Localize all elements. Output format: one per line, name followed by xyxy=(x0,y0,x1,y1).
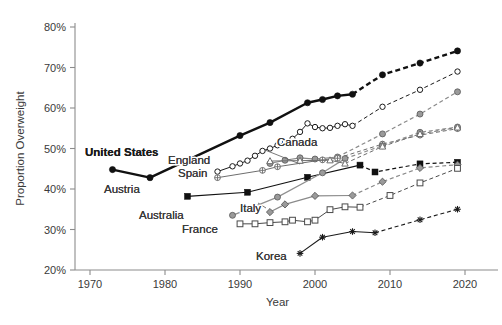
y-tick-label: 40% xyxy=(44,183,66,195)
data-point-open-circle xyxy=(297,129,302,134)
data-point-open-circle xyxy=(252,153,257,158)
series-label-france: France xyxy=(182,223,218,235)
series-line-projected xyxy=(345,127,458,159)
data-point-filled-circle xyxy=(304,100,310,106)
data-point-open-circle xyxy=(215,169,220,174)
series-line-projected xyxy=(375,209,458,232)
data-point-open-circle xyxy=(230,164,235,169)
data-point-open-circle xyxy=(327,125,332,130)
x-tick-label: 1970 xyxy=(78,278,102,290)
series-italy xyxy=(266,161,461,216)
y-tick-label: 30% xyxy=(44,224,66,236)
overweight-proportion-line-chart: 20%30%40%50%60%70%80%1970198019902000201… xyxy=(0,0,502,325)
data-point-filled-circle xyxy=(319,96,325,102)
data-point-filled-circle xyxy=(334,93,340,99)
series-label-austria: Austria xyxy=(104,183,140,195)
y-tick-label: 80% xyxy=(44,21,66,33)
data-point-gray-diamond xyxy=(266,208,273,215)
data-point-open-square xyxy=(305,219,311,225)
data-point-gray-diamond xyxy=(281,201,288,208)
series-line-projected xyxy=(353,72,458,126)
data-point-open-circle xyxy=(417,87,422,92)
series-korea xyxy=(297,206,461,257)
series-label-england: England xyxy=(168,154,210,166)
data-point-open-circle xyxy=(237,161,242,166)
data-point-open-square xyxy=(357,204,363,210)
data-point-filled-circle xyxy=(109,166,115,172)
y-tick-label: 70% xyxy=(44,62,66,74)
x-tick-label: 2010 xyxy=(378,278,402,290)
data-point-gray-diamond xyxy=(379,178,386,185)
data-point-filled-circle xyxy=(454,48,460,54)
data-point-open-square xyxy=(455,165,461,171)
data-point-gray-circle xyxy=(417,111,423,117)
data-point-filled-square xyxy=(357,162,363,168)
data-point-gray-circle xyxy=(320,170,326,176)
data-point-filled-square xyxy=(245,189,251,195)
x-axis-title: Year xyxy=(266,296,289,308)
data-point-open-circle xyxy=(245,158,250,163)
data-point-filled-square xyxy=(372,169,378,175)
y-axis-title: Proportion Overweight xyxy=(14,90,26,205)
data-point-filled-circle xyxy=(237,132,243,138)
series-label-united-states: United States xyxy=(85,146,159,158)
data-point-open-circle xyxy=(267,146,272,151)
data-point-open-circle xyxy=(455,69,460,74)
x-tick-label: 1990 xyxy=(228,278,252,290)
data-point-open-square xyxy=(327,207,333,213)
series-spain xyxy=(215,126,461,181)
series-line-projected xyxy=(345,127,458,163)
series-label-canada: Canada xyxy=(277,136,318,148)
series-line-projected xyxy=(338,129,458,159)
data-point-gray-circle xyxy=(275,194,281,200)
data-point-gray-circle xyxy=(380,131,386,137)
data-point-open-square xyxy=(342,204,348,210)
data-point-open-square xyxy=(267,220,273,226)
series-label-italy: Italy xyxy=(240,202,261,214)
data-point-open-square xyxy=(417,180,423,186)
data-point-gray-diamond xyxy=(349,192,356,199)
chart-figure: 20%30%40%50%60%70%80%1970198019902000201… xyxy=(0,0,502,325)
series-label-australia: Australia xyxy=(139,209,184,221)
data-point-gray-circle xyxy=(230,212,236,218)
data-point-filled-circle xyxy=(349,91,355,97)
data-point-filled-circle xyxy=(379,72,385,78)
series-label-korea: Korea xyxy=(256,250,287,262)
series-label-spain: Spain xyxy=(178,167,207,179)
data-point-open-circle xyxy=(335,123,340,128)
x-tick-label: 2000 xyxy=(303,278,327,290)
series-line-projected xyxy=(353,51,458,94)
y-tick-label: 60% xyxy=(44,102,66,114)
data-point-open-circle xyxy=(305,121,310,126)
data-point-open-square xyxy=(312,217,318,223)
x-tick-label: 2020 xyxy=(453,278,477,290)
series-line-observed xyxy=(300,232,375,254)
data-point-open-square xyxy=(290,217,296,223)
data-point-gray-circle xyxy=(455,89,461,95)
data-point-open-square xyxy=(252,221,258,227)
data-point-open-circle xyxy=(260,148,265,153)
data-point-open-square xyxy=(237,221,243,227)
data-point-filled-circle xyxy=(267,119,273,125)
data-point-open-circle xyxy=(342,122,347,127)
data-point-gray-diamond xyxy=(311,192,318,199)
data-point-filled-square xyxy=(185,193,191,199)
x-tick-label: 1980 xyxy=(153,278,177,290)
data-point-open-circle xyxy=(380,104,385,109)
y-tick-label: 20% xyxy=(44,264,66,276)
data-point-open-circle xyxy=(350,123,355,128)
data-point-open-square xyxy=(282,219,288,225)
data-point-open-circle xyxy=(320,126,325,131)
y-tick-label: 50% xyxy=(44,143,66,155)
data-point-open-square xyxy=(387,193,393,199)
data-point-open-circle xyxy=(312,124,317,129)
series-line-observed xyxy=(188,165,361,196)
data-point-filled-circle xyxy=(147,175,153,181)
data-point-filled-circle xyxy=(417,60,423,66)
